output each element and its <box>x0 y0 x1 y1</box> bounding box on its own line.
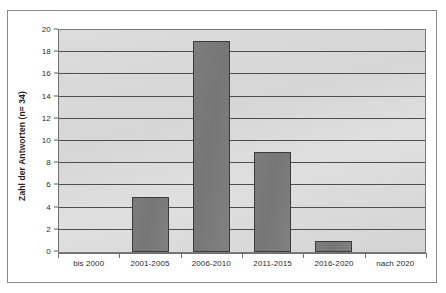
x-axis-tick-mark <box>58 254 59 258</box>
y-axis-tick-label: 14 <box>42 91 51 100</box>
bar-chart: 02468101214161820 Zahl der Antworten (n=… <box>8 11 436 282</box>
x-axis-tick-label: nach 2020 <box>365 259 426 268</box>
x-axis-tick-label: 2006-2010 <box>181 259 242 268</box>
x-axis-tick-mark <box>426 254 427 258</box>
x-axis-tick-mark <box>119 254 120 258</box>
bar[interactable] <box>193 41 230 252</box>
y-axis-tick-mark <box>54 73 58 74</box>
plot-area <box>58 29 426 253</box>
y-axis-tick-mark <box>54 95 58 96</box>
y-axis-tick-label: 10 <box>42 136 51 145</box>
y-axis-tick-label: 12 <box>42 113 51 122</box>
y-axis-tick-label: 0 <box>46 247 51 256</box>
y-axis-tick-mark <box>54 206 58 207</box>
x-axis-tick-mark <box>181 254 182 258</box>
y-axis-tick-label: 8 <box>46 158 51 167</box>
y-axis-line <box>58 29 59 254</box>
y-axis-tick-mark <box>54 51 58 52</box>
x-axis-tickmarks <box>58 254 426 258</box>
chart-figure-frame: 02468101214161820 Zahl der Antworten (n=… <box>7 10 437 283</box>
y-axis-tick-label: 20 <box>42 25 51 34</box>
bar[interactable] <box>315 241 352 252</box>
x-axis-tick-mark <box>242 254 243 258</box>
x-axis-tick-label: bis 2000 <box>58 259 119 268</box>
bars-layer <box>59 30 425 252</box>
y-axis-tick-mark <box>54 228 58 229</box>
bar[interactable] <box>132 197 169 253</box>
bar-slot <box>242 30 303 252</box>
y-axis-tick-mark <box>54 162 58 163</box>
y-axis-title: Zahl der Antworten (n= 34) <box>17 46 27 246</box>
bar[interactable] <box>254 152 291 252</box>
bar-slot <box>303 30 364 252</box>
y-axis-tick-mark <box>54 184 58 185</box>
y-axis-tick-label: 18 <box>42 47 51 56</box>
y-axis-tick-label: 16 <box>42 69 51 78</box>
y-axis-ticks: 02468101214161820 <box>8 29 58 253</box>
x-axis-tick-mark <box>303 254 304 258</box>
x-axis-tick-label: 2001-2005 <box>119 259 180 268</box>
y-axis-tick-mark <box>54 117 58 118</box>
y-axis-tick-label: 4 <box>46 202 51 211</box>
y-axis-tick-mark <box>54 251 58 252</box>
y-axis-tick-label: 6 <box>46 180 51 189</box>
y-axis-tick-mark <box>54 140 58 141</box>
y-axis-tick-mark <box>54 29 58 30</box>
x-axis-tick-mark <box>365 254 366 258</box>
bar-slot <box>181 30 242 252</box>
y-axis-tick-label: 2 <box>46 224 51 233</box>
x-axis-tick-label: 2016-2020 <box>303 259 364 268</box>
bar-slot <box>59 30 120 252</box>
x-axis-labels: bis 20002001-20052006-20102011-20152016-… <box>58 259 426 268</box>
bar-slot <box>120 30 181 252</box>
bar-slot <box>364 30 425 252</box>
x-axis-tick-label: 2011-2015 <box>242 259 303 268</box>
